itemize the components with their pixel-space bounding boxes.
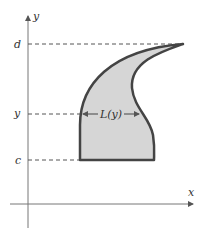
label-d: d xyxy=(14,38,21,51)
x-axis-label: x xyxy=(188,186,195,199)
label-c: c xyxy=(15,154,21,167)
width-label: L(y) xyxy=(99,108,122,121)
y-axis-label: y xyxy=(32,10,40,23)
label-y: y xyxy=(13,107,21,120)
region-diagram: L(y) y x d y c xyxy=(0,0,205,242)
region-shape xyxy=(80,44,183,160)
